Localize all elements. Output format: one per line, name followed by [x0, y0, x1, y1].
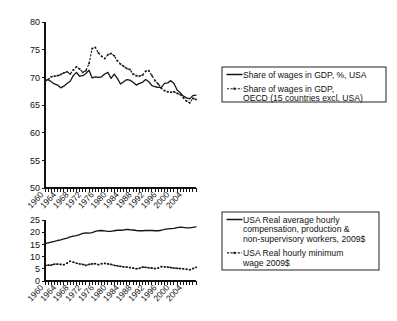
data-point-marker — [69, 260, 71, 262]
data-point-marker — [60, 74, 62, 76]
data-point-marker — [186, 100, 188, 102]
chart-real-wages: 0510152025196019641968197219761980198419… — [25, 212, 379, 303]
data-point-marker — [176, 267, 178, 269]
data-point-marker — [120, 63, 122, 65]
data-point-marker — [98, 52, 100, 54]
data-point-marker — [101, 263, 103, 265]
data-point-marker — [167, 266, 169, 268]
data-series-line-0 — [45, 70, 196, 99]
y-axis-tick-label: 70 — [30, 73, 40, 83]
data-point-marker — [132, 267, 134, 269]
legend-label: compensation, production & — [243, 224, 350, 234]
legend-label: Share of wages in GDP, %, USA — [243, 70, 367, 80]
data-point-marker — [161, 266, 163, 268]
data-point-marker — [164, 266, 166, 268]
chart-share-of-wages: 5055606570758019601964196819721976198019… — [25, 17, 386, 210]
legend-label: USA Real average hourly — [243, 215, 340, 225]
data-series-line-1 — [45, 47, 196, 102]
y-axis-tick-label: 5 — [35, 264, 40, 274]
data-point-marker — [69, 73, 71, 75]
data-point-marker — [66, 262, 68, 264]
data-point-marker — [50, 76, 52, 78]
data-point-marker — [195, 99, 197, 101]
data-point-marker — [192, 98, 194, 100]
data-point-marker — [47, 264, 49, 266]
data-point-marker — [129, 267, 131, 269]
data-point-marker — [170, 267, 172, 269]
data-point-marker — [126, 266, 128, 268]
y-axis-tick-label: 60 — [30, 128, 40, 138]
figure-container: 5055606570758019601964196819721976198019… — [0, 0, 397, 321]
data-series-line-0 — [45, 227, 196, 244]
data-point-marker — [91, 48, 93, 50]
data-point-marker — [135, 75, 137, 77]
data-point-marker — [179, 94, 181, 96]
data-point-marker — [145, 70, 147, 72]
data-point-marker — [44, 265, 46, 267]
data-point-marker — [139, 267, 141, 269]
data-point-marker — [170, 91, 172, 93]
data-point-marker — [76, 262, 78, 264]
data-point-marker — [107, 263, 109, 265]
data-point-marker — [85, 265, 87, 267]
legend-label: Share of wages in GDP, — [243, 84, 334, 94]
data-point-marker — [63, 264, 65, 266]
data-point-marker — [76, 66, 78, 68]
data-point-marker — [164, 90, 166, 92]
data-point-marker — [117, 60, 119, 62]
data-point-marker — [195, 266, 197, 268]
data-point-marker — [145, 266, 147, 268]
data-point-marker — [101, 55, 103, 57]
data-point-marker — [88, 63, 90, 65]
data-point-marker — [167, 91, 169, 93]
data-point-marker — [154, 268, 156, 270]
data-point-marker — [189, 102, 191, 104]
data-point-marker — [132, 73, 134, 75]
data-point-marker — [82, 72, 84, 74]
data-point-marker — [98, 264, 100, 266]
y-axis-tick-label: 10 — [30, 252, 40, 262]
data-point-marker — [186, 268, 188, 270]
data-point-marker — [44, 80, 46, 82]
legend-label: wage 2009$ — [242, 258, 290, 268]
data-point-marker — [113, 55, 115, 57]
data-point-marker — [176, 93, 178, 95]
data-point-marker — [113, 265, 115, 267]
data-point-marker — [50, 264, 52, 266]
data-point-marker — [110, 53, 112, 55]
y-axis-tick-label: 55 — [30, 156, 40, 166]
data-point-marker — [104, 263, 106, 265]
data-point-marker — [183, 97, 185, 99]
data-point-marker — [57, 75, 59, 77]
axis-lines — [45, 220, 196, 281]
y-axis-tick-label: 75 — [30, 45, 40, 55]
data-point-marker — [117, 265, 119, 267]
data-point-marker — [148, 70, 150, 72]
data-point-marker — [110, 264, 112, 266]
data-point-marker — [179, 268, 181, 270]
data-point-marker — [54, 263, 56, 265]
legend-label: USA Real hourly minimum — [243, 248, 343, 258]
data-point-marker — [82, 264, 84, 266]
data-point-marker — [157, 83, 159, 85]
data-point-marker — [123, 266, 125, 268]
data-point-marker — [161, 88, 163, 90]
data-point-marker — [154, 80, 156, 82]
data-point-marker — [142, 74, 144, 76]
legend-swatch-marker-1 — [233, 88, 235, 90]
data-point-marker — [91, 263, 93, 265]
data-point-marker — [157, 267, 159, 269]
data-point-marker — [79, 263, 81, 265]
data-point-marker — [88, 264, 90, 266]
data-point-marker — [72, 69, 74, 71]
data-point-marker — [85, 70, 87, 72]
data-point-marker — [104, 58, 106, 60]
data-point-marker — [151, 75, 153, 77]
legend-swatch-marker-1 — [233, 252, 235, 254]
data-point-marker — [60, 264, 62, 266]
data-point-marker — [123, 65, 125, 67]
data-point-marker — [47, 79, 49, 81]
data-point-marker — [120, 266, 122, 268]
data-point-marker — [126, 68, 128, 70]
legend-label: non-supervisory workers, 2009$ — [243, 234, 366, 244]
